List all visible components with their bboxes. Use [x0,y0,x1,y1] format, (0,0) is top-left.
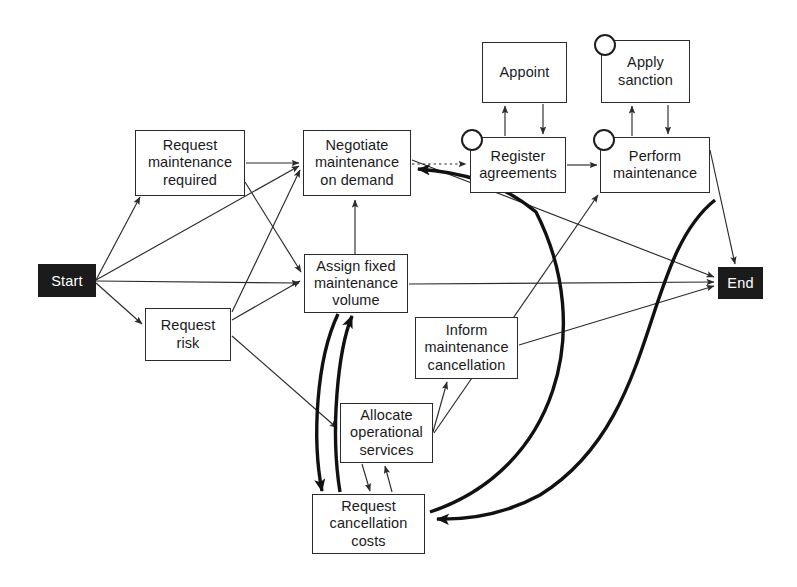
node-register-agreements-label: Register agreements [479,148,557,182]
edge-req_cancel-allocate [385,466,392,492]
role-circle-register-agreements-icon [461,129,483,151]
node-request-maintenance-required[interactable]: Request maintenance required [135,130,245,196]
edge-perform-end [710,150,735,264]
node-assign-fixed-maintenance-volume-label: Assign fixed maintenance volume [314,258,398,309]
node-request-cancellation-costs-label: Request cancellation costs [330,498,408,549]
node-perform-maintenance[interactable]: Perform maintenance [600,137,710,193]
process-diagram: Start End Request maintenance required R… [0,0,797,587]
edge-allocate-req_cancel [362,464,370,491]
node-appoint[interactable]: Appoint [482,42,567,103]
node-appoint-label: Appoint [500,64,550,81]
role-circle-perform-maintenance-icon [593,129,615,151]
node-request-risk-label: Request risk [161,317,216,351]
edge-allocate-perform [434,195,598,433]
edge-start-assign [96,281,299,283]
edge-inform-end [519,286,714,345]
node-negotiate-maintenance-on-demand-label: Negotiate maintenance on demand [315,137,399,188]
role-circle-apply-sanction-icon [594,34,616,56]
node-assign-fixed-maintenance-volume[interactable]: Assign fixed maintenance volume [304,254,408,313]
node-negotiate-maintenance-on-demand[interactable]: Negotiate maintenance on demand [303,130,411,196]
edge-start-req_risk [96,283,142,324]
node-end[interactable]: End [718,267,763,299]
node-start[interactable]: Start [38,264,96,297]
node-perform-maintenance-label: Perform maintenance [613,148,697,182]
node-end-label: End [727,275,753,291]
node-apply-sanction-label: Apply sanction [618,54,673,88]
node-request-maintenance-required-label: Request maintenance required [148,137,232,188]
node-inform-maintenance-cancellation-label: Inform maintenance cancellation [424,322,508,373]
node-register-agreements[interactable]: Register agreements [470,137,566,193]
node-allocate-operational-services-label: Allocate operational services [350,407,423,458]
node-request-cancellation-costs[interactable]: Request cancellation costs [312,494,425,554]
node-inform-maintenance-cancellation[interactable]: Inform maintenance cancellation [415,317,518,379]
edge-req_risk-assign [232,281,300,320]
node-start-label: Start [51,273,83,289]
node-allocate-operational-services[interactable]: Allocate operational services [340,403,433,463]
node-request-risk[interactable]: Request risk [145,308,231,361]
